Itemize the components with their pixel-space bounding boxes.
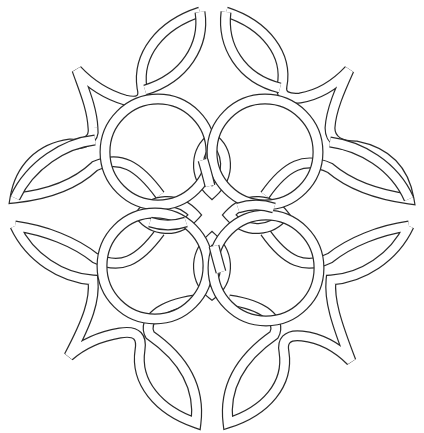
celtic-knot-drawing bbox=[0, 0, 424, 433]
